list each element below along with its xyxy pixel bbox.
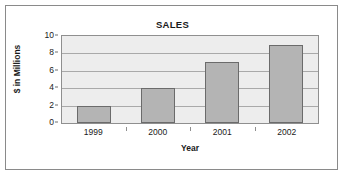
category-separator: [190, 127, 191, 131]
x-tick-label-2002: 2002: [277, 127, 296, 137]
category-separator: [255, 127, 256, 131]
bar-2000[interactable]: [141, 88, 174, 123]
x-tick-label-1999: 1999: [84, 127, 103, 137]
y-tick-label: 4: [49, 82, 54, 92]
x-axis-title: Year: [61, 143, 319, 153]
category-separator: [126, 127, 127, 131]
plot-area: [61, 35, 319, 124]
y-axis-title: $ in Millions: [12, 24, 22, 114]
chart-figure-frame: SALES $ in Millions 1086420 199920002001…: [5, 5, 338, 170]
y-tick-mark: [55, 104, 58, 105]
y-tick-mark: [55, 35, 58, 36]
y-tick-mark: [55, 52, 58, 53]
y-axis-tick-labels: 1086420: [26, 35, 58, 124]
bar-slot: [62, 36, 126, 123]
y-tick-label: 2: [49, 100, 54, 110]
y-tick-mark: [55, 69, 58, 70]
y-tick-mark: [55, 122, 58, 123]
bar-2002[interactable]: [269, 45, 302, 123]
y-tick-label: 10: [45, 30, 54, 40]
y-tick-label: 8: [49, 47, 54, 57]
y-tick-label: 6: [49, 65, 54, 75]
bars-layer: [62, 36, 318, 123]
y-tick-mark: [55, 87, 58, 88]
x-axis-tick-labels: 1999200020012002: [61, 127, 319, 141]
x-tick-label-2000: 2000: [148, 127, 167, 137]
chart-title: SALES: [6, 19, 339, 30]
bar-slot: [190, 36, 254, 123]
y-tick-label: 0: [49, 117, 54, 127]
bar-slot: [126, 36, 190, 123]
bar-slot: [254, 36, 318, 123]
bar-1999[interactable]: [77, 106, 110, 123]
bar-2001[interactable]: [205, 62, 238, 123]
x-tick-label-2001: 2001: [213, 127, 232, 137]
